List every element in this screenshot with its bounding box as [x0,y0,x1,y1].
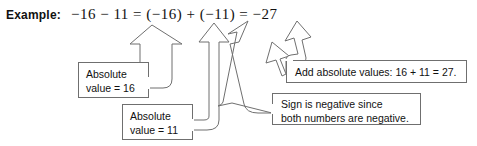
callout-line-1: Absolute [130,109,192,123]
notch-add [285,59,293,61]
callout-line-1: Absolute [86,67,148,81]
callout-line-1: Sign is negative since [281,97,420,111]
arrow-to-paren-minus16 [218,21,272,113]
callout-line-2: value = 11 [130,123,192,137]
example-label: Example: [6,8,61,22]
notch-abs16 [148,77,150,89]
callout-line-2: both numbers are negative. [281,111,420,125]
callout-sign-is-negative: Sign is negative since both numbers are … [272,93,421,125]
notch-abs11 [192,119,194,131]
callout-line-1: Add absolute values: 16 + 11 = 27. [295,65,466,79]
example-equation: −16 − 11 = (−16) + (−11) = −27 [71,6,278,23]
callout-line-2: value = 16 [86,81,148,95]
callout-add-absolute-values: Add absolute values: 16 + 11 = 27. [286,60,467,83]
arrow-to-eleven [193,23,229,130]
callout-absolute-value-16: Absolute value = 16 [78,62,149,98]
callout-absolute-value-11: Absolute value = 11 [122,104,193,140]
example-diagram: Example: −16 − 11 = (−16) + (−11) = −27 … [0,0,477,146]
notch-sign [271,104,273,114]
